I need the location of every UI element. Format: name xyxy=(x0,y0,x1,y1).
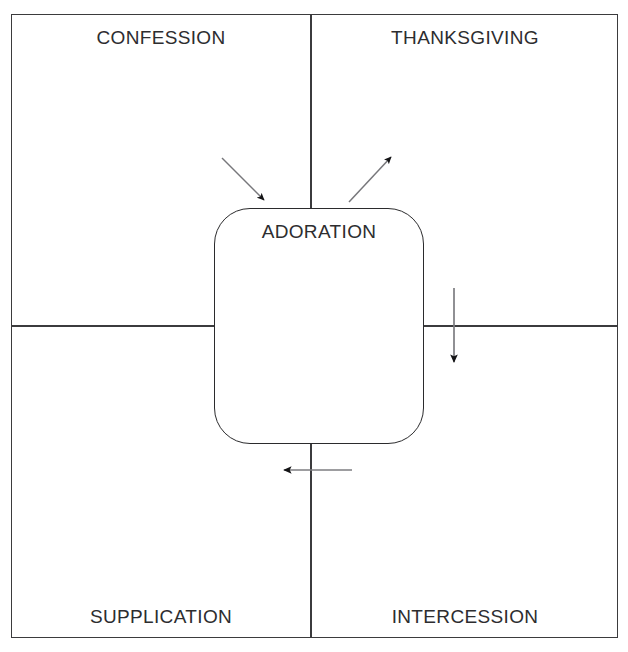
clipped-header-text-value: · · · · · · · · · · xyxy=(286,0,342,4)
center-node-adoration xyxy=(214,208,424,444)
quadrant-label-confession: CONFESSION xyxy=(11,27,311,49)
quadrant-label-supplication: SUPPLICATION xyxy=(11,606,311,628)
quadrant-label-intercession: INTERCESSION xyxy=(312,606,618,628)
diagram-canvas: · · · · · · · · · · CONFESSION THANKSGIV… xyxy=(0,0,628,652)
clipped-header-text: · · · · · · · · · · xyxy=(0,0,628,11)
quadrant-label-thanksgiving: THANKSGIVING xyxy=(312,27,618,49)
center-node-label: ADORATION xyxy=(214,221,424,243)
